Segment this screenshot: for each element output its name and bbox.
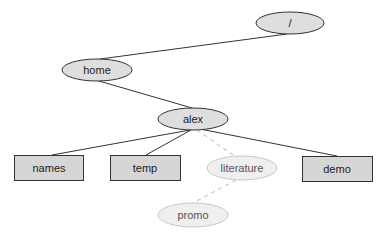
node-demo-label: demo xyxy=(323,163,351,175)
node-alex[interactable]: alex xyxy=(158,108,228,130)
node-literature-label: literature xyxy=(221,162,264,174)
node-literature[interactable]: literature xyxy=(207,156,277,180)
node-temp[interactable]: temp xyxy=(111,156,181,181)
edge-literature-promo xyxy=(193,180,236,203)
node-home-label: home xyxy=(83,64,111,76)
node-names[interactable]: names xyxy=(15,156,84,181)
directory-tree-diagram: / home alex names temp literature demo p… xyxy=(0,0,385,240)
edge-home-alex xyxy=(99,81,192,108)
node-root[interactable]: / xyxy=(256,12,324,34)
node-home[interactable]: home xyxy=(62,59,132,81)
node-alex-label: alex xyxy=(183,113,204,125)
edge-alex-demo xyxy=(200,129,337,156)
node-demo[interactable]: demo xyxy=(303,157,373,182)
edge-alex-literature xyxy=(197,130,236,157)
node-promo-label: promo xyxy=(177,209,208,221)
node-names-label: names xyxy=(32,162,66,174)
edge-root-home xyxy=(100,34,287,59)
node-promo[interactable]: promo xyxy=(158,203,228,227)
node-temp-label: temp xyxy=(133,162,157,174)
